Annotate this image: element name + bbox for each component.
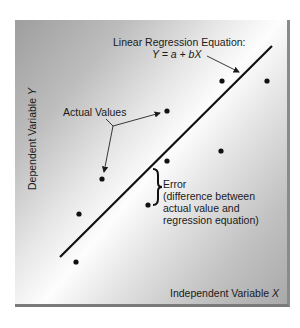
actual-values-connector (106, 119, 113, 126)
data-point (164, 108, 169, 113)
x-axis-label-text: Independent Variable (170, 287, 269, 299)
x-axis-label: Independent Variable X (170, 287, 279, 299)
actual-values-arrow-icon (104, 126, 113, 172)
data-point (264, 78, 269, 83)
error-label: Error (163, 178, 186, 190)
data-point (76, 211, 81, 216)
data-point (219, 78, 224, 83)
equation-arrow-icon (207, 56, 239, 72)
data-point (73, 259, 78, 264)
data-point (145, 202, 150, 207)
y-axis-variable: Y (26, 88, 38, 95)
error-desc-line-1: (difference between (163, 190, 255, 202)
data-point (164, 158, 169, 163)
equation-title: Linear Regression Equation: (113, 36, 246, 48)
error-desc-line-2: actual value and (163, 202, 239, 214)
y-axis-label: Dependent Variable Y (26, 88, 38, 190)
data-point (218, 148, 223, 153)
error-brace-icon (153, 169, 162, 205)
y-axis-label-text: Dependent Variable (26, 98, 38, 190)
error-desc-line-3: regression equation) (163, 214, 259, 226)
regression-diagram (0, 0, 300, 328)
equation-formula: Y = a + bX (152, 48, 201, 60)
actual-values-label: Actual Values (63, 106, 126, 118)
data-point (99, 176, 104, 181)
x-axis-variable: X (272, 287, 279, 299)
